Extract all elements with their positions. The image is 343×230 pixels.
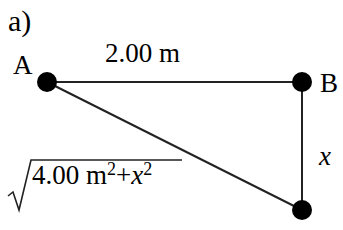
term2: x [131, 160, 143, 190]
hypotenuse-label: 4.00 m2+x2 [32, 162, 152, 189]
length-AB-label: 2.00 m [105, 40, 180, 67]
point-bottom [292, 200, 312, 220]
label-B: B [320, 70, 338, 97]
length-x-label: x [319, 143, 331, 170]
plus: + [116, 160, 131, 190]
hypotenuse-line [47, 82, 302, 210]
exp1: 2 [107, 159, 116, 179]
exp2: 2 [143, 159, 152, 179]
triangle-diagram [0, 0, 343, 230]
point-B [292, 72, 312, 92]
point-A [37, 72, 57, 92]
label-A: A [13, 52, 33, 79]
part-label: a) [8, 6, 31, 36]
term1: 4.00 m [32, 160, 107, 190]
